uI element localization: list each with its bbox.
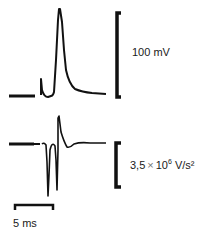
- voltage-scale-bar: [117, 13, 121, 97]
- action-potential-trace: [9, 9, 106, 97]
- acceleration-scale-label: 3,5×106 V/s²: [130, 158, 195, 171]
- acc-mantissa: 3,5: [130, 159, 145, 171]
- acc-unit: V/s²: [175, 159, 195, 171]
- acc-times: ×: [145, 159, 155, 171]
- figure-canvas: [0, 0, 221, 237]
- second-derivative-trace: [9, 116, 106, 196]
- time-scale-bar: [15, 205, 53, 210]
- acc-exponent: 6: [168, 158, 172, 165]
- acc-base: 10: [156, 159, 168, 171]
- acceleration-scale-bar: [116, 143, 121, 187]
- time-scale-label: 5 ms: [13, 217, 37, 229]
- voltage-scale-label: 100 mV: [132, 46, 170, 58]
